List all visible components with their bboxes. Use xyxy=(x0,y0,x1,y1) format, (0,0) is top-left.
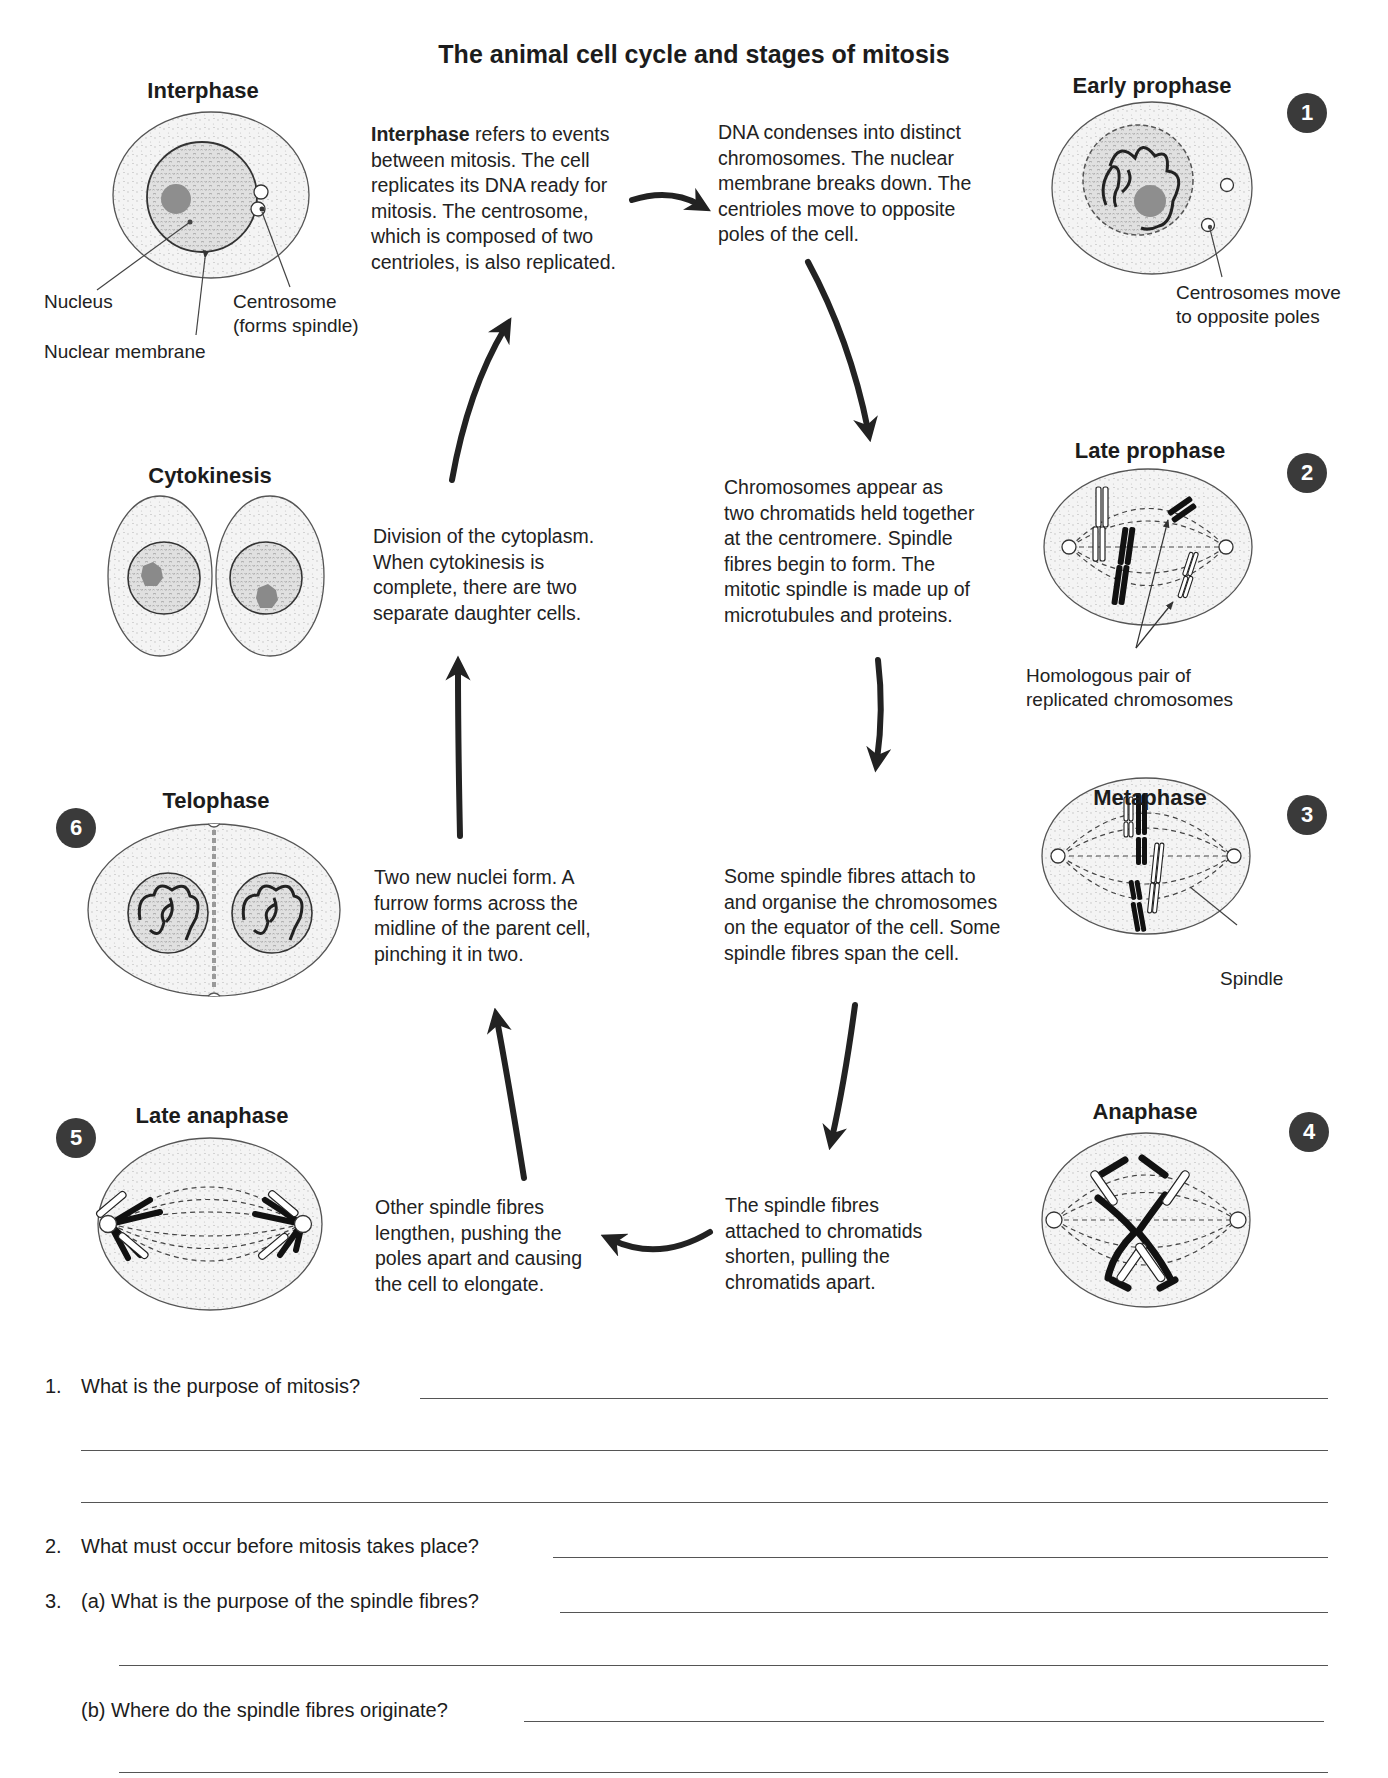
answer-line-1b[interactable] xyxy=(81,1450,1328,1451)
description-metaphase: Some spindle fibres attach to and organi… xyxy=(724,864,1000,966)
interphase-term: Interphase xyxy=(371,123,470,145)
label-cytokinesis: Cytokinesis xyxy=(148,463,272,489)
step-badge-4: 4 xyxy=(1289,1112,1329,1152)
answer-line-1c[interactable] xyxy=(81,1502,1328,1503)
arrow-telophase-to-cytokinesis xyxy=(458,668,460,836)
callout-nucleus: Nucleus xyxy=(44,290,113,314)
label-interphase: Interphase xyxy=(147,78,258,104)
label-late-prophase: Late prophase xyxy=(1075,438,1225,464)
early-prophase-cell xyxy=(1052,102,1252,277)
arrow-anaphase-to-late-anaphase xyxy=(612,1232,710,1249)
answer-line-3b-2[interactable] xyxy=(119,1772,1328,1773)
late-prophase-cell xyxy=(1044,469,1252,648)
description-anaphase: The spindle fibres attached to chromatid… xyxy=(725,1193,922,1295)
arrow-late-anaphase-to-telophase xyxy=(497,1020,524,1178)
arrow-cytokinesis-to-interphase xyxy=(452,328,505,480)
answer-line-3b-1[interactable] xyxy=(524,1721,1324,1722)
anaphase-cell xyxy=(1042,1133,1250,1307)
question-3b-text: (b) Where do the spindle fibres originat… xyxy=(81,1699,448,1722)
label-metaphase: Metaphase xyxy=(1093,785,1207,811)
question-1-number: 1. xyxy=(45,1375,62,1398)
question-2-number: 2. xyxy=(45,1535,62,1558)
step-badge-3: 3 xyxy=(1287,795,1327,835)
description-late-prophase: Chromosomes appear as two chromatids hel… xyxy=(724,475,974,629)
step-badge-1: 1 xyxy=(1287,93,1327,133)
label-telophase: Telophase xyxy=(162,788,269,814)
question-2-text: What must occur before mitosis takes pla… xyxy=(81,1535,479,1558)
description-cytokinesis: Division of the cytoplasm. When cytokine… xyxy=(373,524,594,626)
answer-line-3a-2[interactable] xyxy=(119,1665,1328,1666)
description-telophase: Two new nuclei form. A furrow forms acro… xyxy=(374,865,591,967)
callout-homologous-pair: Homologous pair of replicated chromosome… xyxy=(1026,664,1233,712)
question-1-text: What is the purpose of mitosis? xyxy=(81,1375,360,1398)
telophase-cell xyxy=(88,824,340,996)
interphase-text: refers to events between mitosis. The ce… xyxy=(371,123,616,273)
callout-spindle: Spindle xyxy=(1220,967,1283,991)
step-badge-6: 6 xyxy=(56,808,96,848)
answer-line-2[interactable] xyxy=(553,1557,1328,1558)
answer-line-1a[interactable] xyxy=(420,1398,1328,1399)
description-interphase: Interphase refers to events between mito… xyxy=(371,122,616,276)
label-late-anaphase: Late anaphase xyxy=(136,1103,289,1129)
arrow-early-to-late-prophase xyxy=(808,262,868,430)
cycle-arrows xyxy=(452,195,881,1249)
arrow-metaphase-to-anaphase xyxy=(832,1005,855,1138)
step-badge-5: 5 xyxy=(56,1118,96,1158)
description-early-prophase: DNA condenses into distinct chromosomes.… xyxy=(718,120,971,248)
arrow-interphase-to-early-prophase xyxy=(632,195,700,205)
description-late-anaphase: Other spindle fibres lengthen, pushing t… xyxy=(375,1195,582,1297)
question-3-number: 3. xyxy=(45,1590,62,1613)
callout-nuclear-membrane: Nuclear membrane xyxy=(44,340,206,364)
answer-line-3a-1[interactable] xyxy=(560,1612,1328,1613)
page-title: The animal cell cycle and stages of mito… xyxy=(0,40,1388,69)
cytokinesis-cells xyxy=(108,496,324,656)
label-anaphase: Anaphase xyxy=(1092,1099,1197,1125)
late-anaphase-cell xyxy=(95,1138,322,1310)
step-badge-2: 2 xyxy=(1287,453,1327,493)
callout-centrosomes-move: Centrosomes move to opposite poles xyxy=(1176,281,1341,329)
callout-centrosome: Centrosome (forms spindle) xyxy=(233,290,359,338)
arrow-late-prophase-to-metaphase xyxy=(877,660,881,760)
question-3a-text: (a) What is the purpose of the spindle f… xyxy=(81,1590,479,1613)
label-early-prophase: Early prophase xyxy=(1073,73,1232,99)
